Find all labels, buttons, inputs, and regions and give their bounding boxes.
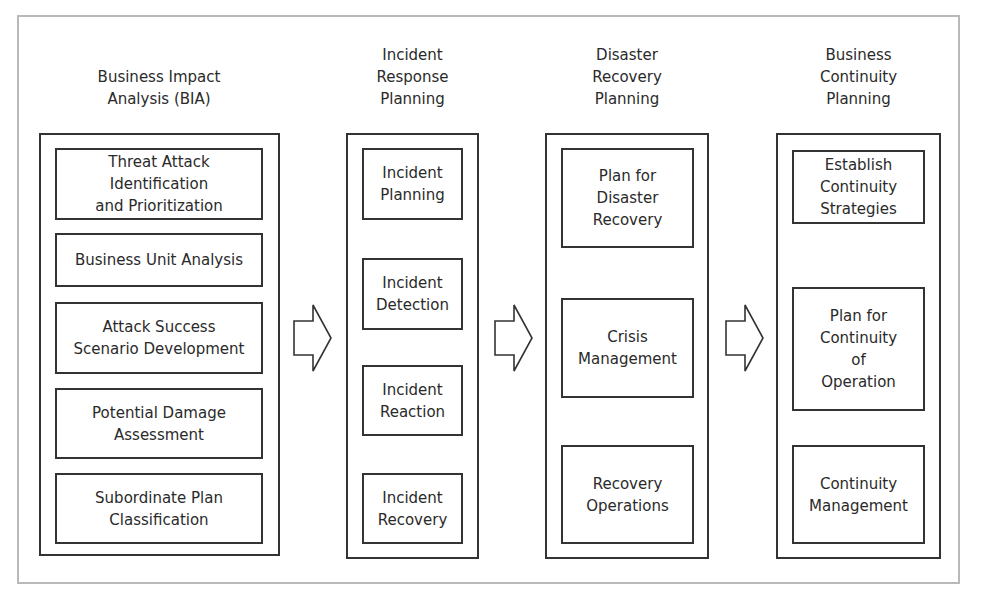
process-box: Potential Damage Assessment — [55, 388, 263, 459]
column-title-drp: Disaster Recovery Planning — [545, 44, 709, 110]
right-arrow-icon — [292, 303, 334, 373]
column-title-bia: Business Impact Analysis (BIA) — [39, 66, 279, 110]
process-box: Establish Continuity Strategies — [792, 150, 925, 224]
process-box: Incident Recovery — [362, 473, 463, 544]
process-box: Attack Success Scenario Development — [55, 302, 263, 374]
right-arrow-icon — [493, 303, 535, 373]
process-box: Plan for Disaster Recovery — [561, 148, 694, 248]
process-box: Incident Detection — [362, 258, 463, 330]
right-arrow-icon — [724, 303, 766, 373]
process-box: Recovery Operations — [561, 445, 694, 544]
process-box: Continuity Management — [792, 445, 925, 544]
process-box: Threat Attack Identification and Priorit… — [55, 148, 263, 220]
process-box: Incident Reaction — [362, 365, 463, 436]
process-box: Plan for Continuity of Operation — [792, 287, 925, 411]
process-box: Subordinate Plan Classification — [55, 473, 263, 544]
column-title-bcp: Business Continuity Planning — [776, 44, 941, 110]
process-box: Crisis Management — [561, 298, 694, 398]
process-box: Incident Planning — [362, 148, 463, 220]
process-box: Business Unit Analysis — [55, 233, 263, 287]
column-title-irp: Incident Response Planning — [346, 44, 479, 110]
